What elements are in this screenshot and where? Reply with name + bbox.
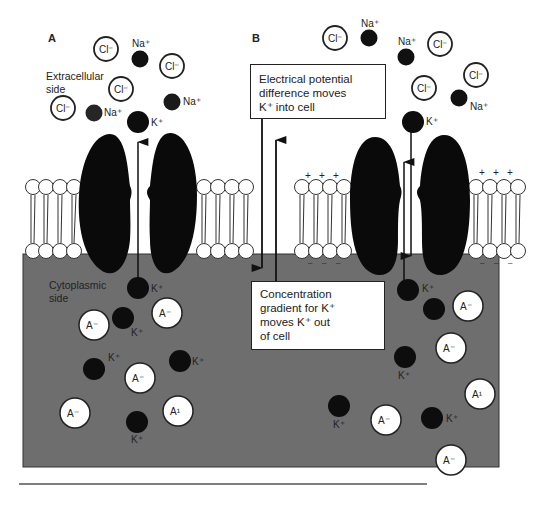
svg-text:A⁻: A⁻ <box>132 373 144 384</box>
ion-cl: Cl⁻ <box>51 96 75 120</box>
channel-subunit-a-left <box>79 134 132 273</box>
concentration-box-line-3: moves K⁺ out <box>260 315 376 329</box>
svg-text:Na⁺: Na⁺ <box>132 38 150 49</box>
positive-charges: + + + + + + <box>305 167 513 181</box>
ion-a: A¹ <box>465 379 495 409</box>
svg-text:K⁺: K⁺ <box>333 419 345 430</box>
svg-text:+: + <box>493 167 499 178</box>
ion-cl: Cl⁻ <box>94 37 118 61</box>
svg-text:–: – <box>308 258 313 267</box>
electrical-box-line-3: K⁺ into cell <box>259 100 377 114</box>
svg-text:A⁻: A⁻ <box>67 408 79 419</box>
svg-text:Na⁺: Na⁺ <box>361 18 379 29</box>
svg-text:K⁺: K⁺ <box>426 116 438 127</box>
svg-text:Cl⁻: Cl⁻ <box>417 83 431 94</box>
svg-text:+: + <box>479 167 485 178</box>
ion-a: A⁻ <box>436 445 466 475</box>
ion-cl: Cl⁻ <box>412 76 436 100</box>
ion-a: A⁻ <box>152 298 182 328</box>
svg-text:A⁻: A⁻ <box>159 308 171 319</box>
svg-text:–: – <box>322 258 327 267</box>
svg-text:Na⁺: Na⁺ <box>398 36 416 47</box>
ion-a: A⁻ <box>60 398 90 428</box>
extracellular-label: Extracellular side <box>46 70 107 95</box>
channel-subunit-b-left <box>350 137 402 275</box>
ion-na: Na⁺ <box>86 105 122 122</box>
svg-text:K⁺: K⁺ <box>131 434 143 445</box>
svg-text:Na⁺: Na⁺ <box>470 101 488 112</box>
ion-na: Na⁺ <box>398 36 416 66</box>
electrical-potential-box: Electrical potential difference moves K⁺… <box>250 64 386 119</box>
ion-cl: Cl⁻ <box>109 77 133 101</box>
ion-cl: Cl⁻ <box>160 54 184 78</box>
concentration-gradient-box: Concentration gradient for K⁺ moves K⁺ o… <box>251 281 385 350</box>
panel-label-b: B <box>252 32 260 44</box>
svg-text:Cl⁻: Cl⁻ <box>328 33 342 44</box>
ion-a: A⁻ <box>436 333 466 363</box>
svg-text:A⁻: A⁻ <box>460 301 472 312</box>
svg-text:Cl⁻: Cl⁻ <box>99 44 113 55</box>
svg-text:+: + <box>333 170 339 181</box>
svg-text:–: – <box>336 258 341 267</box>
svg-text:Na⁺: Na⁺ <box>183 96 201 107</box>
ion-na: Na⁺ <box>132 38 150 68</box>
svg-text:K⁺: K⁺ <box>398 370 410 381</box>
svg-text:+: + <box>507 167 513 178</box>
svg-text:A⁻: A⁻ <box>378 415 390 426</box>
ion-a: A⁻ <box>79 310 109 340</box>
channel-subunit-b-right <box>417 135 470 275</box>
ion-k: K⁺ <box>402 111 438 133</box>
ion-a: A¹ <box>163 396 193 426</box>
svg-text:A¹: A¹ <box>472 389 483 400</box>
svg-text:K⁺: K⁺ <box>446 413 458 424</box>
svg-text:K⁺: K⁺ <box>192 356 204 367</box>
svg-text:A⁻: A⁻ <box>86 320 98 331</box>
ion-k <box>423 298 445 320</box>
ion-a: A⁻ <box>453 291 483 321</box>
electrical-box-line-2: difference moves <box>259 86 377 100</box>
ion-a: A⁻ <box>125 363 155 393</box>
svg-text:A¹: A¹ <box>170 406 181 417</box>
svg-text:A⁻: A⁻ <box>443 455 455 466</box>
svg-text:K⁺: K⁺ <box>151 283 163 294</box>
ion-na: Na⁺ <box>361 18 379 47</box>
svg-text:Cl⁻: Cl⁻ <box>56 103 70 114</box>
svg-text:Cl⁻: Cl⁻ <box>469 70 483 81</box>
svg-text:+: + <box>319 170 325 181</box>
svg-text:K⁺: K⁺ <box>151 117 163 128</box>
svg-text:Na⁺: Na⁺ <box>104 107 122 118</box>
lipid-bilayer-a-right <box>197 180 254 259</box>
svg-text:Cl⁻: Cl⁻ <box>114 84 128 95</box>
svg-text:A⁻: A⁻ <box>443 343 455 354</box>
electrical-box-line-1: Electrical potential <box>259 72 377 86</box>
ion-na: Na⁺ <box>164 94 201 111</box>
concentration-box-line-2: gradient for K⁺ <box>260 301 376 315</box>
ion-na: Na⁺ <box>451 90 488 113</box>
ion-k: K⁺ <box>127 111 163 133</box>
lipid-bilayer-b-right <box>469 180 526 259</box>
svg-text:Cl⁻: Cl⁻ <box>165 61 179 72</box>
ion-a: A⁻ <box>371 405 401 435</box>
svg-text:K⁺: K⁺ <box>422 283 434 294</box>
concentration-box-line-4: of cell <box>260 329 376 343</box>
channel-subunit-a-right <box>147 133 197 273</box>
lipid-bilayer-a-left <box>26 180 82 259</box>
svg-text:K⁺: K⁺ <box>131 327 143 338</box>
lipid-bilayer-b-left <box>295 180 352 259</box>
svg-text:+: + <box>305 170 311 181</box>
concentration-box-line-1: Concentration <box>260 287 376 301</box>
panel-label-a: A <box>48 32 56 44</box>
svg-text:–: – <box>508 258 513 267</box>
svg-text:K⁺: K⁺ <box>108 352 120 363</box>
svg-text:Cl⁻: Cl⁻ <box>433 39 447 50</box>
ion-cl: Cl⁻ <box>428 32 452 56</box>
ion-cl: Cl⁻ <box>464 63 488 87</box>
ion-cl: Cl⁻ <box>323 26 347 50</box>
svg-text:–: – <box>480 258 485 267</box>
svg-text:–: – <box>494 258 499 267</box>
